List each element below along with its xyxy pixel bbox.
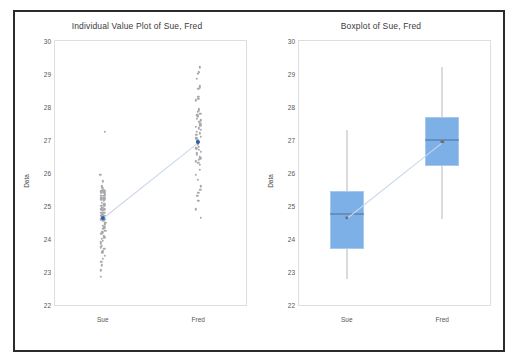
boxplot-y-tick: 30	[288, 38, 295, 45]
data-point	[100, 264, 102, 266]
boxplot-y-tick: 24	[288, 236, 295, 243]
group-mean-marker	[196, 140, 200, 144]
individual-value-plot-y-tick: 29	[44, 71, 51, 78]
individual-value-plot-y-axis-label: Data	[23, 174, 30, 188]
data-point	[197, 73, 199, 75]
data-point	[197, 98, 199, 100]
individual-value-plot-title: Individual Value Plot of Sue, Fred	[15, 21, 259, 31]
panel-individual-value-plot: Individual Value Plot of Sue, Fred Data …	[15, 12, 259, 350]
data-point	[195, 134, 197, 136]
data-point	[103, 211, 105, 213]
figure-frame: Individual Value Plot of Sue, Fred Data …	[13, 10, 505, 352]
mean-connect-line	[346, 142, 442, 219]
data-point	[199, 112, 201, 114]
data-point	[100, 261, 102, 263]
individual-value-plot-y-tick: 22	[44, 302, 51, 309]
data-point	[200, 185, 202, 187]
data-point	[101, 251, 103, 253]
data-point	[104, 131, 106, 133]
data-point	[196, 195, 198, 197]
data-point	[199, 216, 201, 218]
data-point	[102, 200, 104, 202]
boxplot-y-tick: 25	[288, 203, 295, 210]
boxplot-title: Boxplot of Sue, Fred	[259, 21, 503, 31]
data-point	[102, 239, 104, 241]
data-point	[196, 78, 198, 80]
data-point	[198, 66, 200, 68]
individual-value-plot-y-tick: 26	[44, 170, 51, 177]
boxplot-x-tick: Fred	[436, 316, 449, 323]
individual-value-plot-y-tick: 30	[44, 38, 51, 45]
boxplot-y-tick: 28	[288, 104, 295, 111]
boxplot-y-tick: 27	[288, 137, 295, 144]
data-point	[195, 173, 197, 175]
boxplot-y-tick: 23	[288, 269, 295, 276]
data-point	[199, 135, 201, 137]
data-point	[194, 99, 196, 101]
boxplot-x-tick: Sue	[341, 316, 353, 323]
data-point	[195, 208, 197, 210]
data-point	[104, 254, 106, 256]
data-point	[199, 132, 201, 134]
data-point	[104, 223, 106, 225]
data-point	[100, 192, 102, 194]
data-point	[102, 180, 104, 182]
data-point	[197, 178, 199, 180]
boxplot-y-tick: 22	[288, 302, 295, 309]
data-point	[197, 145, 199, 147]
boxplot-y-tick: 29	[288, 71, 295, 78]
data-point	[199, 164, 201, 166]
boxplot-area: 222324252627282930SueFred	[298, 40, 491, 306]
data-point	[195, 126, 197, 128]
panel-boxplot: Boxplot of Sue, Fred Data 22232425262728…	[259, 12, 503, 350]
data-point	[200, 150, 202, 152]
mean-connect-line	[102, 142, 198, 219]
individual-value-plot-y-tick: 28	[44, 104, 51, 111]
data-point	[103, 205, 105, 207]
individual-value-plot-y-tick: 27	[44, 137, 51, 144]
boxplot-y-axis-label: Data	[267, 174, 274, 188]
data-point	[100, 269, 102, 271]
individual-value-plot-x-tick: Sue	[97, 316, 109, 323]
data-point	[199, 188, 201, 190]
individual-value-plot-y-tick: 23	[44, 269, 51, 276]
box	[330, 191, 364, 249]
data-point	[199, 124, 201, 126]
data-point	[100, 276, 102, 278]
individual-value-plot-x-tick: Fred	[192, 316, 205, 323]
median-line	[330, 214, 364, 215]
data-point	[103, 236, 105, 238]
boxplot-y-tick: 26	[288, 170, 295, 177]
data-point	[198, 168, 200, 170]
data-point	[197, 200, 199, 202]
data-point	[99, 173, 101, 175]
data-point	[197, 192, 199, 194]
data-point	[199, 129, 201, 131]
individual-value-plot-y-tick: 24	[44, 236, 51, 243]
data-point	[104, 230, 106, 232]
individual-value-plot-y-tick: 25	[44, 203, 51, 210]
individual-value-plot-area: 222324252627282930SueFred	[54, 40, 247, 306]
data-point	[101, 258, 103, 260]
